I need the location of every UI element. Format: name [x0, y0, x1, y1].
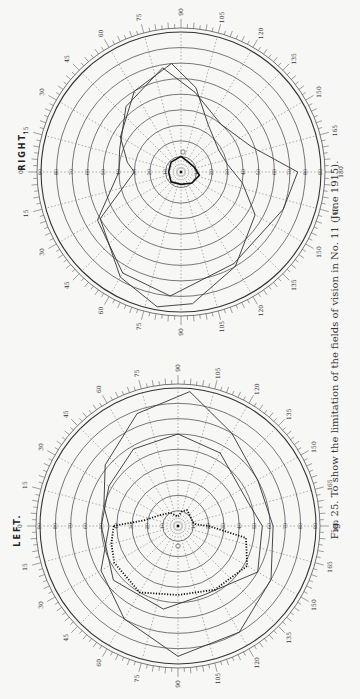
radial-label: 90 — [37, 169, 43, 175]
scale-tick — [227, 387, 229, 393]
scale-tick — [34, 153, 38, 154]
radial-label: 60 — [271, 169, 277, 175]
angle-label: 75 — [133, 675, 140, 683]
angle-label: 105 — [218, 12, 225, 24]
scale-tick — [269, 413, 273, 418]
scale-tick — [287, 72, 290, 75]
angle-label: 90 — [174, 364, 181, 372]
scale-tick — [130, 31, 132, 37]
scale-tick — [323, 146, 329, 147]
scale-tick — [232, 657, 234, 661]
meridian-line — [45, 490, 178, 526]
scale-tick — [79, 631, 82, 634]
scale-tick — [315, 487, 324, 489]
scale-tick — [259, 642, 262, 647]
scale-tick — [62, 437, 65, 439]
scale-tick — [287, 617, 292, 621]
angle-label: 30 — [38, 248, 45, 256]
scale-tick — [311, 475, 317, 477]
scale-tick — [298, 448, 301, 450]
scale-tick — [244, 652, 246, 656]
scale-tick — [283, 274, 289, 280]
scale-tick — [159, 667, 160, 671]
radial-label: 90 — [36, 523, 42, 529]
scale-tick — [278, 419, 284, 425]
meridian-line — [178, 526, 311, 562]
meridian-line — [80, 428, 178, 526]
scale-tick — [238, 655, 241, 660]
scale-tick — [242, 303, 245, 308]
scale-tick — [141, 24, 143, 33]
scale-tick — [139, 663, 141, 672]
scale-tick — [85, 57, 89, 62]
scale-tick — [139, 380, 141, 389]
scale-tick — [242, 36, 245, 41]
scale-tick — [304, 592, 308, 594]
scale-tick — [312, 109, 317, 112]
scale-tick — [295, 82, 298, 84]
scale-tick — [315, 563, 324, 565]
scale-tick — [269, 286, 271, 289]
scale-tick — [35, 494, 39, 495]
radial-label: 70 — [67, 523, 73, 529]
scale-tick — [32, 551, 38, 552]
scale-tick — [194, 23, 195, 29]
scale-tick — [221, 661, 222, 665]
scale-tick — [57, 607, 62, 610]
radial-label: 50 — [251, 523, 257, 529]
scale-tick — [236, 35, 238, 39]
radial-label: 80 — [297, 523, 303, 529]
scale-tick — [230, 31, 232, 37]
scale-tick — [209, 665, 210, 669]
scale-tick — [152, 380, 153, 386]
scale-tick — [33, 146, 39, 147]
scale-tick — [318, 500, 324, 501]
radial-label: 10 — [162, 169, 168, 175]
scale-tick — [40, 121, 46, 123]
scale-tick — [124, 305, 126, 309]
scale-tick — [258, 47, 260, 50]
scale-tick — [93, 405, 96, 410]
scale-tick — [294, 607, 299, 610]
scale-tick — [295, 260, 298, 262]
radial-label: 10 — [159, 523, 165, 529]
angle-label: 150 — [315, 246, 322, 258]
scale-tick — [100, 646, 102, 649]
scale-tick — [83, 413, 87, 418]
angle-label: 120 — [253, 657, 260, 669]
scale-tick — [91, 286, 93, 289]
scale-tick — [291, 265, 296, 269]
scale-tick — [244, 396, 246, 400]
scale-tick — [274, 418, 277, 421]
scale-tick — [302, 92, 305, 94]
scale-tick — [319, 507, 323, 508]
scale-tick — [249, 649, 254, 657]
radial-label: 20 — [146, 169, 152, 175]
scale-tick — [40, 127, 44, 128]
scale-tick — [47, 451, 55, 456]
scale-tick — [146, 665, 147, 669]
angle-label: 150 — [310, 599, 317, 611]
scale-tick — [64, 260, 67, 262]
scale-tick — [32, 159, 38, 160]
scale-tick — [324, 191, 328, 192]
angle-label: 15 — [21, 481, 28, 489]
angle-label: 105 — [218, 321, 225, 333]
scale-tick — [152, 666, 153, 672]
scale-tick — [40, 221, 46, 223]
scale-tick — [309, 238, 313, 240]
scale-tick — [45, 233, 50, 236]
scale-tick — [309, 580, 313, 582]
scale-tick — [141, 311, 143, 320]
scale-tick — [122, 657, 124, 661]
meridian-line — [145, 37, 181, 172]
scale-tick — [324, 159, 330, 160]
scale-tick — [62, 612, 65, 614]
scale-tick — [89, 410, 91, 413]
scale-tick — [324, 153, 328, 154]
scale-tick — [55, 602, 58, 604]
scale-tick — [264, 49, 267, 54]
scale-tick — [101, 47, 103, 50]
scale-tick — [318, 127, 322, 128]
angle-label: 165 — [326, 561, 333, 573]
